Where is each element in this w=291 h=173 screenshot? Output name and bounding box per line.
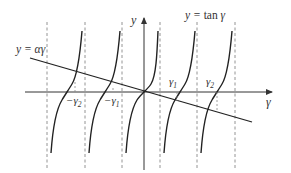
x-axis-label: γ bbox=[266, 95, 271, 109]
root-label-neg-gamma-1: −γ1 bbox=[104, 94, 120, 109]
root-label-gamma-1: γ1 bbox=[169, 75, 177, 90]
root-base: −γ bbox=[104, 94, 116, 106]
tan-equation-label: y = tan γ bbox=[184, 9, 226, 22]
root-sub: 1 bbox=[116, 100, 120, 109]
tan-label-var: γ bbox=[218, 9, 226, 22]
root-label-gamma-2: γ2 bbox=[206, 75, 214, 90]
tan-label-prefix: y = bbox=[184, 9, 204, 22]
root-label-neg-gamma-2: −γ2 bbox=[66, 94, 82, 109]
y-axis-label: y bbox=[130, 13, 137, 27]
line-equation-label: y = αγ bbox=[15, 43, 46, 56]
diagram-canvas: y γ y = αγ y = tan γ −γ2 −γ1 γ1 γ2 bbox=[0, 0, 291, 173]
root-sub: 2 bbox=[210, 81, 214, 90]
root-sub: 2 bbox=[78, 100, 82, 109]
tan-label-func: tan bbox=[204, 9, 218, 21]
root-base: −γ bbox=[66, 94, 78, 106]
root-sub: 1 bbox=[173, 81, 177, 90]
